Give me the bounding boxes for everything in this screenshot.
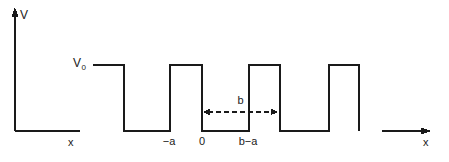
period-arrowhead-right-icon (271, 109, 278, 115)
v0-label: V0 (73, 57, 85, 69)
v0-label-main: V (73, 56, 81, 70)
x-axis-right (382, 128, 431, 135)
x-axis-label-right: x (423, 137, 429, 148)
x-tick-label: 0 (199, 136, 205, 147)
x-tick-label: b−a (239, 136, 258, 147)
v-axis-arrowhead-icon (12, 7, 19, 17)
period-label: b (237, 95, 243, 106)
period-dimension-arrow (203, 109, 278, 115)
v-axis-label: V (20, 9, 28, 21)
potential-diagram-figure: V x x V0 −a0b−a b (0, 0, 449, 162)
x-axis-arrowhead-icon (421, 128, 431, 135)
v0-label-subscript: 0 (82, 63, 86, 72)
period-arrowhead-left-icon (203, 109, 210, 115)
v-axis (12, 7, 19, 131)
x-tick-label: −a (163, 136, 176, 147)
x-axis-label-left: x (68, 137, 74, 148)
potential-curve (93, 65, 359, 131)
